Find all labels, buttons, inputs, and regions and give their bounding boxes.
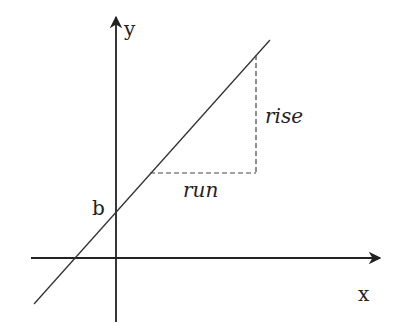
rise-label: rise — [265, 104, 303, 128]
x-axis-label: x — [358, 282, 370, 306]
slope-diagram: y x b rise run — [0, 0, 399, 336]
run-label: run — [183, 178, 218, 202]
y-axis-label: y — [123, 17, 136, 41]
intercept-label: b — [92, 196, 105, 220]
sloped-line — [34, 40, 270, 304]
